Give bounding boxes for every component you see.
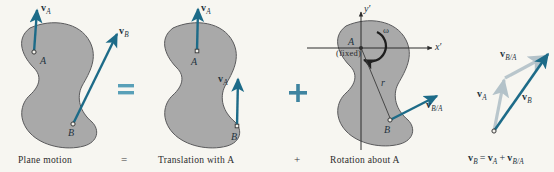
point-b-marker-panel1 [71, 122, 75, 126]
result-equation: vB=vA+vB/A [468, 152, 524, 166]
caption-operator-plus: + [294, 153, 300, 165]
panel-rotation [307, 12, 437, 150]
vector-va-at-a-panel2 [197, 9, 198, 51]
radius-label-r: r [381, 77, 385, 88]
point-b-marker-panel2 [235, 124, 239, 128]
caption-operator-equals: = [121, 153, 127, 165]
vector-label-vba-triangle: vB/A [500, 48, 517, 62]
point-label-b-panel2: B [231, 131, 237, 142]
caption-rotation: Rotation about A [330, 155, 400, 165]
vector-va-at-b-panel2 [237, 79, 238, 126]
point-a-fixed-note: (fixed) [336, 48, 361, 58]
vector-label-va-panel1: vA [41, 2, 51, 16]
panel-translation [165, 9, 240, 148]
plane-motion-figure: A B vA vB A B vA vA y′ x′ A (fixed) ω r … [0, 0, 554, 172]
point-label-a-panel3: A [348, 36, 354, 47]
vector-label-va-top-panel2: vA [201, 2, 211, 16]
triangle-origin-marker [492, 129, 496, 133]
vector-label-vb-triangle: vB [522, 91, 532, 105]
vector-label-va-bottom-panel2: vA [218, 73, 228, 87]
axis-label-x-prime: x′ [435, 41, 442, 52]
omega-label: ω [383, 25, 389, 35]
operator-plus-symbol [289, 84, 307, 102]
panel-vector-triangle [492, 54, 548, 133]
point-label-a-panel2: A [191, 56, 197, 67]
point-label-b-panel3: B [384, 124, 390, 135]
point-label-b-panel1: B [68, 127, 74, 138]
rigid-body-shape-1 [22, 23, 97, 148]
axis-label-y-prime: y′ [364, 3, 371, 14]
vector-label-va-triangle: vA [477, 88, 487, 102]
point-a-marker-panel2 [195, 49, 199, 53]
figure-canvas [0, 0, 554, 172]
point-a-marker-panel1 [32, 50, 36, 54]
vector-label-vb-panel1: vB [119, 25, 129, 39]
point-b-marker-panel3 [388, 118, 392, 122]
point-label-a-panel1: A [40, 55, 46, 66]
vector-label-vba-panel3: vB/A [426, 99, 443, 113]
caption-plane-motion: Plane motion [18, 155, 72, 165]
caption-translation: Translation with A [158, 155, 234, 165]
rigid-body-shape-2 [165, 23, 240, 148]
operator-equals-symbol [118, 84, 134, 94]
